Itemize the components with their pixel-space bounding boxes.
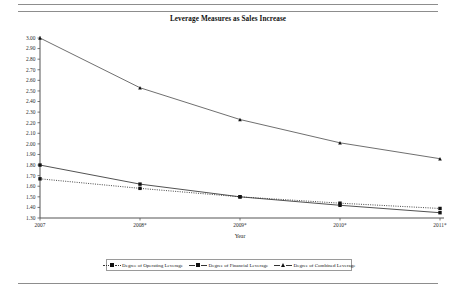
y-tick-label: 1.90 [26,151,36,157]
y-tick-label: 2.40 [26,98,36,104]
legend-line-sample [274,262,292,269]
y-tick-label: 3.00 [26,35,36,41]
y-tick-label: 2.20 [26,120,36,126]
chart-page: Leverage Measures as Sales Increase 3.00… [0,0,456,289]
chart-legend: Degree of Operating LeverageDegree of Fi… [106,259,352,271]
data-series [38,177,441,210]
page-rule-bottom [18,283,438,284]
y-axis-ticks: 3.002.902.802.702.602.502.402.302.202.10… [26,35,40,221]
data-point-marker [38,177,41,180]
legend-label: Degree of Operating Leverage [122,263,183,268]
data-point-marker [138,187,141,190]
legend-label: Degree of Combined Leverage [294,263,356,268]
data-series [38,36,442,160]
data-series-group [38,36,442,214]
legend-item[interactable]: Degree of Combined Leverage [274,262,355,269]
x-tick-label: 2010* [333,222,347,228]
data-series [38,163,441,214]
data-point-marker [338,204,341,207]
y-tick-label: 1.40 [26,204,36,210]
y-tick-label: 2.60 [26,77,36,83]
data-point-marker [438,211,441,214]
legend-item[interactable]: Degree of Operating Leverage [103,262,183,269]
x-tick-label: 2009* [233,222,247,228]
legend-label: Degree of Financial Leverage [209,263,269,268]
y-tick-label: 2.50 [26,88,36,94]
data-point-marker [438,207,441,210]
y-tick-label: 2.70 [26,67,36,73]
data-point-marker [138,182,141,185]
x-axis-ticks: 20072008*2009*2010*2011* [35,218,447,228]
x-axis-title: Year [235,233,246,239]
page-rule-top-2 [18,11,438,12]
series-line [40,38,440,159]
chart-title: Leverage Measures as Sales Increase [0,15,456,23]
y-tick-label: 1.50 [26,194,36,200]
plot-area: 3.002.902.802.702.602.502.402.302.202.10… [0,30,456,245]
y-tick-label: 2.30 [26,109,36,115]
y-tick-label: 1.80 [26,162,36,168]
data-point-marker [238,195,241,198]
y-tick-label: 2.10 [26,130,36,136]
y-tick-label: 1.60 [26,183,36,189]
line-chart-svg: 3.002.902.802.702.602.502.402.302.202.10… [0,30,456,245]
data-point-marker [38,163,41,166]
x-tick-label: 2008* [133,222,147,228]
y-tick-label: 1.30 [26,215,36,221]
page-rule-top-1 [18,4,438,5]
y-tick-label: 2.80 [26,56,36,62]
legend-item[interactable]: Degree of Financial Leverage [189,262,268,269]
y-tick-label: 2.00 [26,141,36,147]
x-tick-label: 2011* [433,222,447,228]
y-tick-label: 2.90 [26,45,36,51]
y-tick-label: 1.70 [26,173,36,179]
legend-line-sample [189,262,207,269]
x-tick-label: 2007 [35,222,46,228]
legend-line-sample [103,262,121,269]
series-line [40,179,440,209]
